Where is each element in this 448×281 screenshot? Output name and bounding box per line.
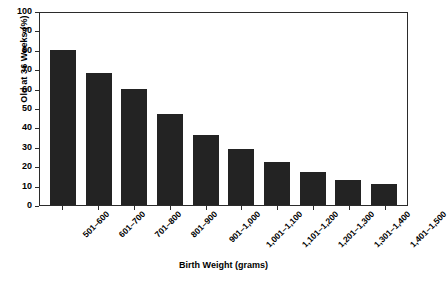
y-axis-tick-label: 40	[22, 122, 32, 132]
bar	[371, 184, 397, 205]
plot-area	[39, 12, 408, 206]
bar	[50, 50, 76, 205]
bar	[335, 180, 361, 205]
bar-item	[300, 13, 326, 205]
bar-item	[228, 13, 254, 205]
x-axis-tick-label: 801–900	[188, 209, 218, 239]
bar-item	[121, 13, 147, 205]
bar-item	[193, 13, 219, 205]
bar	[86, 73, 112, 205]
x-axis-tick-label: 1,101–1,200	[300, 209, 341, 250]
bar	[193, 135, 219, 205]
bar-series	[40, 13, 407, 205]
y-axis-tick-label: 30	[22, 142, 32, 152]
bar	[157, 114, 183, 205]
bar-item	[157, 13, 183, 205]
y-axis-tick-label: 0	[27, 200, 32, 210]
y-axis-tick-label: 80	[22, 45, 32, 55]
y-axis-tick-label: 60	[22, 84, 32, 94]
x-axis-title: Birth Weight (grams)	[39, 260, 408, 270]
x-axis-tick-label: 1,001–1,100	[264, 209, 305, 250]
bar-item	[371, 13, 397, 205]
y-axis-tick-label: 50	[22, 103, 32, 113]
y-axis-tick-label: 10	[22, 181, 32, 191]
bar-item	[50, 13, 76, 205]
x-axis-tick-label: 601–700	[117, 209, 147, 239]
y-axis-tick-label: 70	[22, 64, 32, 74]
bar-item	[335, 13, 361, 205]
x-axis-tick-label: 701–800	[152, 209, 182, 239]
y-axis-tick-label: 90	[22, 25, 32, 35]
bar-item	[264, 13, 290, 205]
x-axis-tick-label: 1,401–1,500	[408, 209, 448, 250]
x-axis-tick-label: 1,301–1,400	[372, 209, 413, 250]
x-axis-tick-label: 1,201–1,300	[336, 209, 377, 250]
bar	[228, 149, 254, 205]
bar	[264, 162, 290, 205]
y-axis-tick-label: 100	[17, 6, 32, 16]
y-axis-tick-label: 20	[22, 161, 32, 171]
x-axis-tick-labels: 501–600601–700701–800801–900901–1,0001,0…	[39, 209, 408, 255]
x-axis-tick-label: 901–1,000	[226, 209, 261, 244]
bar	[300, 172, 326, 205]
bar-item	[86, 13, 112, 205]
bar	[121, 89, 147, 205]
x-axis-tick-label: 501–600	[81, 209, 111, 239]
